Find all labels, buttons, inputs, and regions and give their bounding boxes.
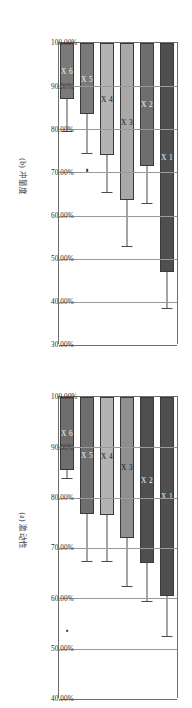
axis-tick-label: 80.00%: [51, 494, 74, 502]
chart-panel-a: X 1X 2X 3X 4X 5X 6 100.00%90.00%80.00%70…: [0, 354, 192, 708]
axis-tick-label: 60.00%: [51, 595, 74, 603]
axis-tick-label: 80.00%: [51, 126, 74, 134]
figure-canvas: X 1X 2X 3X 4X 5X 6 100.00%90.00%80.00%70…: [0, 0, 192, 708]
axis-tick-label: 90.00%: [51, 83, 74, 91]
axis-tick-label: 70.00%: [51, 169, 74, 177]
axis-tick-label: 30.00%: [51, 341, 74, 349]
axis-tick-label: 100.00%: [51, 393, 77, 401]
axis-tick-label: 50.00%: [51, 645, 74, 653]
axis-tick-label: 100.00%: [51, 39, 77, 47]
axis-tick-label: 90.00%: [51, 444, 74, 452]
gridline: [59, 345, 177, 346]
panel-caption-b: (b) 冲量度: [18, 0, 29, 354]
axis-tick-label: 70.00%: [51, 544, 74, 552]
axis-tick-label: 50.00%: [51, 255, 74, 263]
gridline: [59, 699, 177, 700]
chart-panel-b: X 1X 2X 3X 4X 5X 6 100.00%90.00%80.00%70…: [0, 0, 192, 354]
axis-tick-label: 40.00%: [51, 298, 74, 306]
axis-tick-label: 60.00%: [51, 212, 74, 220]
axis-tick-label: 40.00%: [51, 695, 74, 703]
panel-caption-a: (a) 激动性: [18, 354, 29, 708]
